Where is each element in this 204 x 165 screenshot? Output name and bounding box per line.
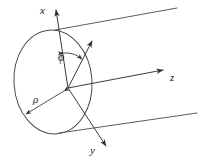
phi-angle-label: ϕ — [58, 51, 64, 63]
cylindrical-coordinate-figure: x y z ϕ ρ — [0, 0, 204, 165]
z-axis-line — [68, 70, 163, 88]
base-circle-group — [10, 27, 95, 136]
rho-radius-label: ρ — [33, 94, 38, 105]
phi-angle-arc — [63, 53, 82, 59]
cylinder-top-line — [55, 8, 177, 30]
cylinder-surface-lines — [55, 8, 197, 133]
radial-direction-arrow — [68, 41, 92, 88]
base-circle-outline — [10, 27, 95, 136]
y-axis-line — [68, 88, 106, 146]
rho-radius-arrow-group — [26, 91, 64, 114]
x-axis-label: x — [40, 5, 45, 16]
radial-direction-arrow-group — [68, 41, 92, 88]
rho-radius-arrow — [26, 91, 64, 114]
phi-angle-arc-group — [63, 53, 82, 59]
x-axis-group — [56, 10, 68, 88]
cylinder-bottom-line — [59, 113, 197, 133]
y-axis-group — [68, 88, 106, 146]
y-axis-label: y — [90, 145, 95, 156]
x-axis-line — [56, 10, 68, 88]
z-axis-group — [68, 70, 163, 88]
z-axis-label: z — [170, 72, 174, 83]
